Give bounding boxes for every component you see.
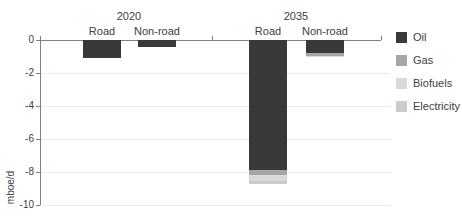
legend-swatch-oil (396, 32, 407, 43)
stacked-bar-chart: mboe/d 0-2-4-6-8-10RoadNon-roadRoadNon-r… (0, 0, 462, 221)
bar-label: Non-road (123, 25, 191, 37)
bar-segment-electricity-road-2035 (249, 181, 287, 184)
legend-swatch-gas (396, 55, 407, 66)
y-axis-line (40, 40, 41, 205)
group-label: 2020 (99, 10, 159, 22)
y-tick-label: -2 (6, 67, 34, 79)
y-tick-label: -6 (6, 133, 34, 145)
group-label: 2035 (266, 10, 326, 22)
gridline (40, 73, 390, 74)
bar-segment-oil-non-road-2035 (306, 40, 344, 53)
legend-label-biofuels: Biofuels (413, 77, 452, 90)
legend-label-electricity: Electricity (413, 100, 460, 113)
x-axis-tick-mark (212, 36, 213, 40)
legend-swatch-biofuels (396, 78, 407, 89)
bar-segment-oil-road-2035 (249, 40, 287, 170)
gridline (40, 139, 390, 140)
legend-swatch-electricity (396, 101, 407, 112)
y-tick-label: -4 (6, 100, 34, 112)
bar-segment-biofuels-non-road-2035 (306, 56, 344, 58)
gridline (40, 205, 390, 206)
y-tick-label: -8 (6, 166, 34, 178)
bar-segment-oil-road-2020 (83, 40, 121, 58)
x-axis-tick-mark (381, 36, 382, 40)
legend-label-gas: Gas (413, 54, 433, 67)
y-tick-label: 0 (6, 34, 34, 46)
legend-label-oil: Oil (413, 31, 426, 44)
gridline (40, 106, 390, 107)
bar-segment-oil-non-road-2020 (138, 40, 176, 47)
bar-label: Non-road (291, 25, 359, 37)
x-axis-tick-mark (40, 36, 41, 40)
y-tick-label: -10 (6, 199, 34, 211)
gridline (40, 172, 390, 173)
y-tick-mark (36, 205, 40, 206)
